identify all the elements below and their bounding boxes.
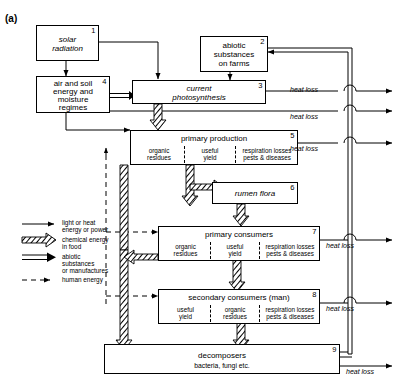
heat-loss-label-airsoil: heat loss <box>290 113 318 120</box>
box-primary-production[interactable]: 5 primary production organic residues us… <box>130 130 298 165</box>
box-label-abiotic-line2: substances <box>201 50 267 59</box>
legend-label-human-l1: human energy <box>62 276 103 283</box>
box-label-solar-radiation-line1: solar <box>37 35 98 44</box>
legend-arrow-abiotic <box>22 253 56 263</box>
legend-label-abiotic-l3: or manufactures <box>62 267 108 274</box>
box-current-photosynthesis[interactable]: 3 current photosynthesis <box>132 80 266 104</box>
box-solar-radiation[interactable]: 1 solar radiation <box>36 25 99 61</box>
box-decomposers[interactable]: 9 decomposers bacteria, fungi etc. <box>104 344 340 374</box>
box-label-abiotic-line3: on farms <box>201 59 267 68</box>
cell-respiration-l2: pests & diseases <box>260 250 320 257</box>
box-label-abiotic-line1: abiotic <box>201 41 267 50</box>
cell-useful-yield-l2: yield <box>162 313 209 320</box>
legend-label-light-heat-l2: energy or power <box>62 226 108 233</box>
box-label-rumen-flora: rumen flora <box>213 189 297 198</box>
cell-organic-residues-l2: residues <box>135 154 183 161</box>
cell-divider <box>235 146 236 163</box>
diagram-canvas: (a) <box>0 0 419 384</box>
box-label-airsoil-line4: regimes <box>37 103 109 112</box>
legend: light or heat energy or power chemical e… <box>20 218 135 310</box>
heat-loss-label-decomposers: heat loss <box>346 368 374 375</box>
cell-useful-yield-l2: yield <box>211 250 259 257</box>
box-label-solar-radiation-line2: radiation <box>37 44 98 53</box>
heat-loss-label-secondary-consumers: heat loss <box>326 305 354 312</box>
box-label-decomposers-sub: bacteria, fungi etc. <box>105 361 339 370</box>
box-label-primary-production: primary production <box>131 134 297 143</box>
legend-arrow-chemical <box>22 233 56 247</box>
heat-loss-label-primary-production: heat loss <box>290 145 318 152</box>
cell-organic-residues-l2: residues <box>162 250 209 257</box>
heat-loss-label-primary-consumers: heat loss <box>326 242 354 249</box>
box-air-and-soil[interactable]: 4 air and soil energy and moisture regim… <box>36 76 110 113</box>
box-label-decomposers: decomposers <box>105 351 339 360</box>
box-number-1: 1 <box>91 27 95 35</box>
cell-respiration-l2: pests & diseases <box>260 313 320 320</box>
cell-respiration-l2: pests & diseases <box>237 154 297 161</box>
box-label-photosynthesis-line1: current <box>133 84 265 93</box>
cell-organic-residues-l2: residues <box>211 313 259 320</box>
heat-loss-label-photosynthesis: heat loss <box>290 86 318 93</box>
box-abiotic-substances[interactable]: 2 abiotic substances on farms <box>200 36 268 72</box>
box-secondary-consumers[interactable]: 8 secondary consumers (man) useful yield… <box>158 289 320 324</box>
box-primary-consumers[interactable]: 7 primary consumers organic residues use… <box>158 226 320 261</box>
box-label-secondary-consumers: secondary consumers (man) <box>159 293 319 302</box>
box-label-primary-consumers: primary consumers <box>159 230 319 239</box>
legend-label-chemical-l2: in food <box>62 243 81 250</box>
cell-useful-yield-l2: yield <box>185 154 235 161</box>
box-label-photosynthesis-line2: photosynthesis <box>133 93 265 102</box>
box-rumen-flora[interactable]: 6 rumen flora <box>212 182 298 204</box>
